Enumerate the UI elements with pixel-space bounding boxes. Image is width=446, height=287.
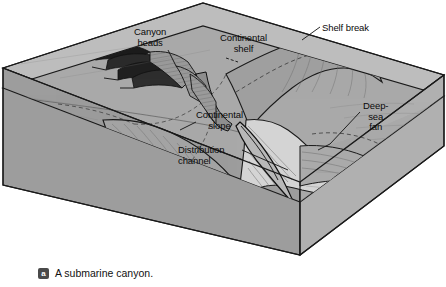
label-continental-slope: Continental slope xyxy=(196,110,243,131)
label-continental-shelf: Continental shelf xyxy=(220,33,267,54)
label-deep-sea-fan: Deep- sea fan xyxy=(363,101,388,133)
caption-badge-letter: a xyxy=(38,268,49,279)
figure-submarine-canyon: Canyon heads Continental shelf Shelf bre… xyxy=(0,0,446,287)
caption-text: A submarine canyon. xyxy=(55,267,153,279)
figure-caption: a A submarine canyon. xyxy=(38,267,153,279)
label-canyon-heads: Canyon heads xyxy=(134,27,166,48)
label-distribution-channel: Distribution channel xyxy=(178,145,224,166)
label-shelf-break: Shelf break xyxy=(322,23,369,34)
